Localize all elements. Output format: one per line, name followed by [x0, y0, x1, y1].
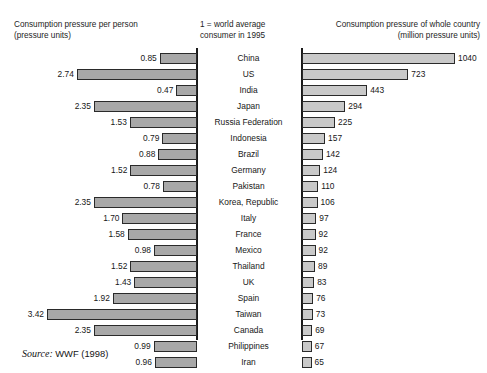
right-bar-value: 69 [315, 325, 324, 336]
right-bar-value: 723 [411, 69, 425, 80]
left-bar [128, 229, 197, 240]
chart-row: 0.78Pakistan110 [0, 178, 487, 194]
left-bar [134, 277, 197, 288]
right-bar [302, 197, 318, 208]
right-bar-value: 97 [319, 213, 328, 224]
left-bar [154, 341, 197, 352]
left-bar-value: 1.92 [93, 293, 109, 304]
left-bar-group: 0.96 [136, 355, 197, 369]
left-bar-value: 2.35 [75, 197, 91, 208]
left-bar-group: 0.98 [135, 243, 197, 257]
chart-row: 1.43UK83 [0, 274, 487, 290]
left-bar-value: 0.98 [135, 245, 151, 256]
country-label: Germany [200, 164, 297, 176]
left-bar-value: 0.85 [140, 53, 156, 64]
right-bar [302, 213, 316, 224]
left-bar-group: 2.35 [75, 323, 197, 337]
right-bar [302, 69, 408, 80]
chart-row: 1.70Italy97 [0, 210, 487, 226]
chart-row: 1.92Spain76 [0, 290, 487, 306]
left-bar-value: 2.35 [75, 101, 91, 112]
right-bar-value: 443 [370, 85, 384, 96]
country-label: Mexico [200, 244, 297, 256]
left-bar-value: 0.88 [139, 149, 155, 160]
right-bar-group: 92 [302, 243, 328, 257]
left-bar-group: 1.43 [115, 275, 197, 289]
right-bar [302, 229, 316, 240]
right-bar-value: 89 [318, 261, 327, 272]
left-bar-value: 1.53 [111, 117, 127, 128]
country-label: US [200, 68, 297, 80]
left-axis-title: Consumption pressure per person (pressur… [14, 19, 138, 41]
country-label: Taiwan [200, 308, 297, 320]
left-bar [94, 101, 197, 112]
right-bar-group: 110 [302, 179, 335, 193]
center-scale-note: 1 = world average consumer in 1995 [200, 19, 265, 41]
chart-figure: Consumption pressure per person (pressur… [0, 0, 487, 373]
country-label: Iran [200, 356, 297, 368]
right-bar-value: 67 [315, 341, 324, 352]
right-bar-group: 124 [302, 163, 337, 177]
source-label: Source: [22, 348, 53, 359]
chart-row: 2.74US723 [0, 66, 487, 82]
left-bar-group: 1.52 [111, 163, 197, 177]
left-bar-value: 1.43 [115, 277, 131, 288]
chart-row: 1.52Germany124 [0, 162, 487, 178]
left-bar-value: 3.42 [28, 309, 44, 320]
left-bar-group: 1.58 [108, 227, 197, 241]
left-bar [163, 181, 197, 192]
right-bar-group: 443 [302, 83, 384, 97]
right-bar-group: 67 [302, 339, 324, 353]
right-bar-value: 92 [319, 229, 328, 240]
right-bar [302, 245, 316, 256]
chart-row: 1.53Russia Federation225 [0, 114, 487, 130]
left-bar-group: 0.47 [157, 83, 197, 97]
right-bar-value: 92 [319, 245, 328, 256]
chart-row: 2.35Korea, Republic106 [0, 194, 487, 210]
right-bar-group: 97 [302, 211, 329, 225]
right-bar-group: 294 [302, 99, 362, 113]
left-bar [154, 245, 197, 256]
country-label: India [200, 84, 297, 96]
left-bar-group: 1.52 [111, 259, 197, 273]
left-bar [176, 85, 197, 96]
right-bar [302, 101, 345, 112]
left-bar-group: 0.99 [134, 339, 197, 353]
country-label: Japan [200, 100, 297, 112]
right-bar-value: 73 [316, 309, 325, 320]
right-bar-group: 69 [302, 323, 324, 337]
left-bar [160, 53, 197, 64]
right-bar [302, 181, 318, 192]
country-label: Pakistan [200, 180, 297, 192]
right-bar-group: 157 [302, 131, 342, 145]
right-bar-value: 157 [328, 133, 342, 144]
right-bar [302, 341, 312, 352]
left-bar [94, 197, 197, 208]
left-bar [130, 165, 197, 176]
left-bar-group: 1.53 [111, 115, 197, 129]
right-bar-value: 294 [348, 101, 362, 112]
right-bar-value: 83 [317, 277, 326, 288]
left-bar-value: 1.52 [111, 165, 127, 176]
country-label: Canada [200, 324, 297, 336]
left-bar-group: 0.79 [143, 131, 197, 145]
right-bar [302, 165, 320, 176]
country-label: Russia Federation [200, 116, 297, 128]
chart-row: 0.88Brazil142 [0, 146, 487, 162]
right-bar [302, 261, 315, 272]
country-label: Korea, Republic [200, 196, 297, 208]
right-bar [302, 53, 455, 64]
left-bar-group: 0.78 [143, 179, 197, 193]
chart-row: 1.58France92 [0, 226, 487, 242]
right-bar [302, 133, 325, 144]
left-bar-value: 0.79 [143, 133, 159, 144]
country-label: China [200, 52, 297, 64]
left-bar [130, 261, 197, 272]
right-bar [302, 117, 335, 128]
left-bar [122, 213, 197, 224]
country-label: UK [200, 276, 297, 288]
chart-row: 0.79Indonesia157 [0, 130, 487, 146]
left-bar-group: 2.74 [58, 67, 197, 81]
left-bar-group: 0.88 [139, 147, 197, 161]
left-bar [47, 309, 197, 320]
